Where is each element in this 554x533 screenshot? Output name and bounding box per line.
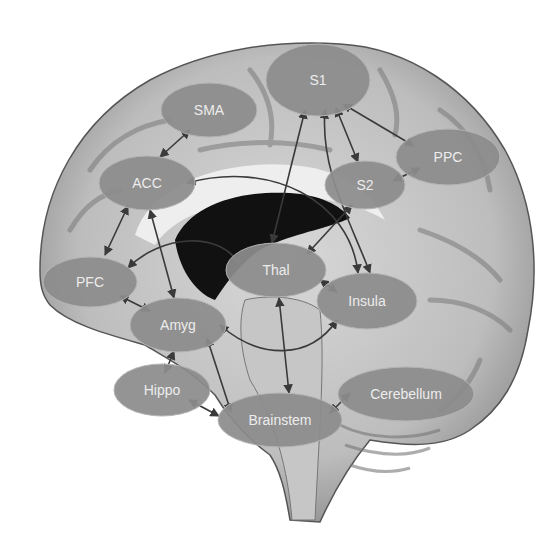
node-ppc: PPC — [396, 129, 500, 185]
node-amyg: Amyg — [130, 298, 226, 352]
node-label: S2 — [356, 177, 373, 193]
node-thal: Thal — [226, 243, 326, 297]
brain-network-diagram: S1SMAPPCACCS2ThalPFCInsulaAmygHippoCereb… — [0, 0, 554, 533]
node-sma: SMA — [161, 83, 257, 137]
node-label: PFC — [76, 274, 104, 290]
node-label: Amyg — [160, 317, 196, 333]
node-cerebellum: Cerebellum — [338, 367, 474, 421]
node-brainstem: Brainstem — [218, 393, 342, 447]
node-label: PPC — [434, 149, 463, 165]
node-label: S1 — [309, 72, 326, 88]
node-insula: Insula — [317, 273, 417, 329]
node-s2: S2 — [325, 161, 405, 209]
node-label: Insula — [348, 293, 386, 309]
node-label: SMA — [194, 102, 225, 118]
node-label: Cerebellum — [370, 386, 442, 402]
node-label: Hippo — [144, 382, 181, 398]
node-label: Thal — [262, 262, 289, 278]
node-pfc: PFC — [43, 257, 137, 307]
node-s1: S1 — [266, 44, 370, 116]
node-label: ACC — [132, 175, 162, 191]
node-acc: ACC — [99, 156, 195, 210]
node-label: Brainstem — [248, 412, 311, 428]
node-hippo: Hippo — [114, 364, 210, 416]
